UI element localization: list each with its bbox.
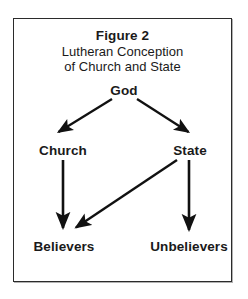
figure-title-line-2: Lutheran Conception [13, 44, 232, 59]
node-church: Church [39, 143, 87, 158]
figure-title-line-3: of Church and State [13, 59, 232, 74]
node-god: God [110, 83, 137, 98]
figure-title-line-1: Figure 2 [13, 28, 232, 44]
figure-title: Figure 2 Lutheran Conception of Church a… [13, 28, 232, 75]
figure-diagram: Figure 2 Lutheran Conception of Church a… [0, 0, 248, 299]
node-state: State [173, 143, 207, 158]
node-believers: Believers [34, 239, 95, 254]
node-unbelievers: Unbelievers [150, 239, 228, 254]
